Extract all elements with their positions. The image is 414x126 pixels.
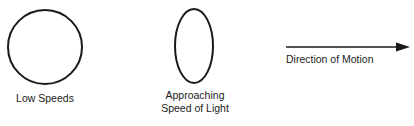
direction-arrow-icon xyxy=(286,43,410,52)
direction-of-motion-label: Direction of Motion xyxy=(286,53,374,66)
low-speed-circle xyxy=(8,10,82,84)
approaching-label-line2: Speed of Light xyxy=(156,102,234,115)
low-speeds-label: Low Speeds xyxy=(10,92,80,105)
approaching-label-line1: Approaching xyxy=(156,89,234,102)
approaching-speed-of-light-label: Approaching Speed of Light xyxy=(156,89,234,115)
contracted-ellipse xyxy=(175,9,213,83)
